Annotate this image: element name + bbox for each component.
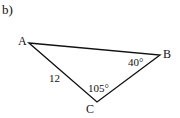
vertex-label-a: A — [18, 35, 27, 47]
angle-label-b: 40° — [128, 57, 143, 68]
angle-label-c: 105° — [88, 83, 109, 94]
part-label: b) — [2, 3, 13, 16]
side-length-ac: 12 — [49, 73, 60, 84]
vertex-label-c: C — [86, 103, 94, 115]
vertex-label-b: B — [163, 48, 171, 60]
triangle-figure — [0, 0, 180, 118]
